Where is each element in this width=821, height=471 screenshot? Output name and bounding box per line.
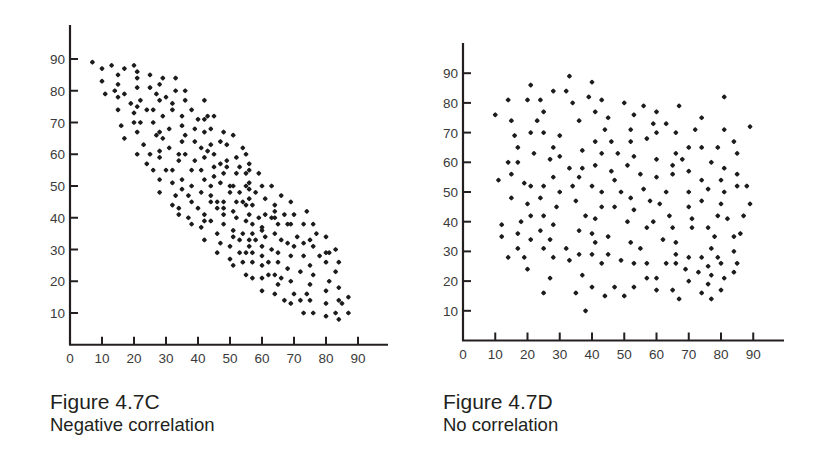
data-point — [654, 275, 660, 281]
data-point — [176, 205, 182, 211]
data-point — [696, 269, 702, 275]
data-point — [205, 148, 211, 154]
data-point — [654, 157, 660, 163]
data-point — [250, 259, 256, 265]
y-tick-label: 60 — [443, 155, 458, 170]
data-point — [557, 189, 563, 195]
data-point — [628, 195, 634, 201]
data-point — [291, 291, 297, 297]
data-point — [189, 107, 195, 113]
data-point — [583, 213, 589, 219]
data-point — [122, 66, 128, 72]
data-point — [631, 284, 637, 290]
data-point — [214, 250, 220, 256]
data-point — [333, 247, 339, 253]
data-point — [176, 151, 182, 157]
data-point — [192, 139, 198, 145]
data-point — [579, 165, 585, 171]
caption-left: Figure 4.7C Negative correlation — [50, 390, 215, 435]
data-point — [721, 94, 727, 100]
data-point — [346, 294, 352, 300]
data-point — [721, 165, 727, 171]
data-point — [638, 171, 644, 177]
data-point — [285, 266, 291, 272]
data-point — [718, 260, 724, 266]
data-point — [599, 260, 605, 266]
data-point — [563, 88, 569, 94]
data-point — [211, 113, 217, 119]
data-point — [499, 222, 505, 228]
data-point — [307, 237, 313, 243]
data-point — [663, 189, 669, 195]
y-tick-label: 50 — [443, 185, 458, 200]
data-point — [621, 293, 627, 299]
data-point — [122, 91, 128, 97]
x-tick-label: 40 — [584, 347, 599, 362]
data-point — [570, 100, 576, 106]
data-point — [715, 145, 721, 151]
data-point — [246, 212, 252, 218]
data-point — [705, 186, 711, 192]
data-point — [272, 202, 278, 208]
data-point — [654, 174, 660, 180]
y-tick-label: 20 — [50, 274, 65, 289]
data-point — [291, 212, 297, 218]
data-point — [266, 259, 272, 265]
data-point — [715, 213, 721, 219]
data-point — [512, 133, 518, 139]
data-point — [323, 259, 329, 265]
data-point — [650, 219, 656, 225]
data-point — [202, 155, 208, 161]
data-point — [605, 115, 611, 121]
y-tick-label: 70 — [50, 116, 65, 131]
data-point — [705, 281, 711, 287]
no-correlation-chart: 1020304050607080900102030405060708090 — [443, 43, 784, 362]
data-point — [189, 199, 195, 205]
data-point — [285, 240, 291, 246]
data-point — [221, 170, 227, 176]
data-point — [541, 246, 547, 252]
data-point — [272, 272, 278, 278]
data-point — [211, 174, 217, 180]
data-point — [240, 231, 246, 237]
data-point — [576, 174, 582, 180]
data-point — [182, 88, 188, 94]
data-point — [214, 199, 220, 205]
data-point — [638, 246, 644, 252]
data-point — [221, 221, 227, 227]
data-point — [288, 199, 294, 205]
data-point — [272, 209, 278, 215]
data-point — [128, 101, 134, 107]
data-point — [550, 255, 556, 261]
data-point — [708, 272, 714, 278]
data-point — [208, 199, 214, 205]
data-point — [288, 253, 294, 259]
data-point — [326, 278, 332, 284]
data-point — [557, 154, 563, 160]
data-point — [118, 123, 124, 129]
data-point — [576, 252, 582, 258]
data-point — [518, 219, 524, 225]
x-tick-label: 80 — [318, 351, 333, 366]
data-point — [612, 284, 618, 290]
data-point — [689, 225, 695, 231]
data-point — [499, 234, 505, 240]
data-point — [747, 201, 753, 207]
y-tick-label: 10 — [50, 306, 65, 321]
data-point — [731, 139, 737, 145]
data-point — [224, 164, 230, 170]
data-point — [157, 97, 163, 103]
data-point — [275, 259, 281, 265]
data-point — [166, 145, 172, 151]
data-point — [157, 148, 163, 154]
data-point — [182, 151, 188, 157]
data-point — [275, 221, 281, 227]
data-point — [641, 103, 647, 109]
data-point — [160, 75, 166, 81]
data-point — [179, 139, 185, 145]
data-point — [157, 82, 163, 88]
data-point — [134, 75, 140, 81]
data-point — [262, 234, 268, 240]
data-point — [307, 282, 313, 288]
x-tick-label: 60 — [649, 347, 664, 362]
